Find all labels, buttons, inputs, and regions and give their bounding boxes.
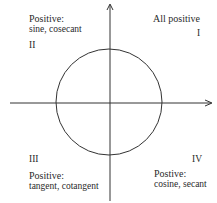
unit-circle <box>56 49 162 155</box>
quadrant-iii-heading: Positive: <box>29 170 64 181</box>
trig-quadrant-diagram: Positive: sine, cosecant II All positive… <box>0 0 217 203</box>
quadrant-iii-functions: tangent, cotangent <box>29 181 99 192</box>
quadrant-iv-functions: cosine, secant <box>154 179 207 190</box>
quadrant-iv-heading: Postive: <box>154 168 186 179</box>
quadrant-ii-heading: Positive: <box>29 13 64 24</box>
quadrant-ii-numeral: II <box>29 40 35 50</box>
quadrant-i-numeral: I <box>197 28 200 38</box>
quadrant-ii-functions: sine, cosecant <box>29 24 82 35</box>
quadrant-iv-numeral: IV <box>192 154 202 164</box>
quadrant-iii-numeral: III <box>29 154 39 164</box>
quadrant-i-heading: All positive <box>153 13 200 24</box>
